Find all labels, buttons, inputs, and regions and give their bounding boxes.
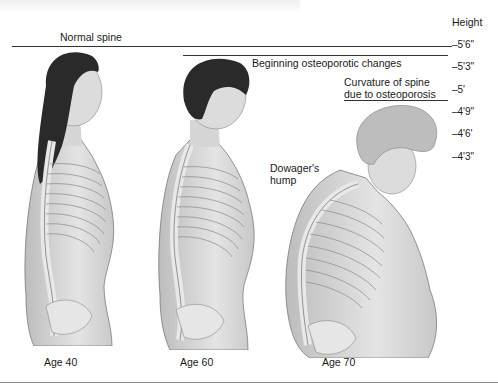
figure-age-70 [270,100,445,358]
height-tick-5-3: –5'3" [452,61,474,72]
curvature-label-line1: Curvature of spine [344,76,430,88]
height-tick-4-3: –4'3" [452,151,474,162]
age-label-40: Age 40 [44,356,77,368]
height-tick-5-0: –5' [452,84,465,95]
bottom-divider [0,382,498,383]
age-label-70: Age 70 [322,356,355,368]
figure-age-40 [0,46,140,346]
beginning-changes-label: Beginning osteoporotic changes [252,57,401,69]
normal-spine-label: Normal spine [60,31,122,43]
height-tick-4-6: –4'6' [452,128,473,139]
height-tick-5-6: –5'6" [452,39,474,50]
height-axis-title: Height [452,16,482,28]
age-label-60: Age 60 [180,356,213,368]
height-tick-4-9: –4'9" [452,106,474,117]
curvature-label-line2: due to osteoporosis [344,88,436,100]
figure-age-60 [140,55,270,350]
top-shading [0,0,300,12]
